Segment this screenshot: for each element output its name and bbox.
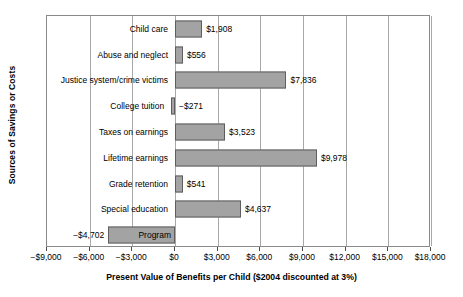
x-tick-label: $9,000 [289, 252, 315, 262]
value-label: $556 [187, 50, 206, 60]
bar[interactable] [175, 149, 317, 166]
x-tick-mark [131, 247, 132, 251]
plot-area: Child care$1,908Abuse and neglect$556Jus… [46, 15, 430, 247]
bar-inner-label: Program [138, 230, 171, 240]
category-label: Child care [130, 24, 168, 34]
bar-row: Special education$4,637 [47, 196, 429, 222]
x-tick-label: −$9,000 [31, 252, 62, 262]
value-label: −$271 [179, 101, 203, 111]
category-label: Abuse and neglect [98, 50, 168, 60]
bar[interactable] [171, 98, 175, 115]
gridline [431, 16, 432, 246]
bar-row: Child care$1,908 [47, 16, 429, 42]
bar-row: Taxes on earnings$3,523 [47, 119, 429, 145]
value-label: $3,523 [229, 127, 255, 137]
category-label: Justice system/crime victims [61, 75, 168, 85]
x-tick-label: $0 [169, 252, 178, 262]
bar[interactable] [175, 20, 202, 37]
x-axis-title-text: Present Value of Benefits per Child ($20… [106, 272, 357, 282]
x-tick-mark [387, 247, 388, 251]
bar-row: Grade retention$541 [47, 171, 429, 197]
x-axis-title: Present Value of Benefits per Child ($20… [0, 272, 463, 282]
y-axis-title: Sources of Savings or Costs [0, 0, 24, 250]
bar[interactable] [175, 72, 286, 89]
category-label: Grade retention [109, 179, 168, 189]
x-tick-mark [217, 247, 218, 251]
category-label: College tuition [110, 101, 164, 111]
x-tick-label: $6,000 [246, 252, 272, 262]
bar-row: Lifetime earnings$9,978 [47, 145, 429, 171]
bar-chart: Sources of Savings or Costs Child care$1… [0, 0, 463, 297]
value-label: $9,978 [321, 153, 347, 163]
value-label: $1,908 [206, 24, 232, 34]
value-label: −$4,702 [73, 230, 104, 240]
x-tick-mark [259, 247, 260, 251]
y-axis-title-text: Sources of Savings or Costs [7, 66, 17, 184]
bar-row: College tuition−$271 [47, 93, 429, 119]
category-label: Special education [101, 204, 168, 214]
x-tick-mark [174, 247, 175, 251]
bar[interactable] [175, 201, 241, 218]
x-tick-mark [430, 247, 431, 251]
value-label: $4,637 [245, 204, 271, 214]
bar[interactable] [175, 46, 183, 63]
x-tick-mark [46, 247, 47, 251]
bar-row: ProgramProgram−$4,702 [47, 222, 429, 248]
bar-row: Abuse and neglect$556 [47, 42, 429, 68]
x-tick-mark [89, 247, 90, 251]
x-tick-label: −$6,000 [73, 252, 104, 262]
x-tick-label: $18,000 [415, 252, 446, 262]
value-label: $7,836 [290, 75, 316, 85]
bar[interactable] [175, 175, 183, 192]
bar-row: Justice system/crime victims$7,836 [47, 68, 429, 94]
x-tick-mark [345, 247, 346, 251]
category-label: Taxes on earnings [99, 127, 168, 137]
bar[interactable] [175, 123, 225, 140]
x-tick-mark [302, 247, 303, 251]
x-tick-label: $15,000 [372, 252, 403, 262]
x-tick-label: −$3,000 [116, 252, 147, 262]
value-label: $541 [187, 179, 206, 189]
x-tick-label: $3,000 [204, 252, 230, 262]
x-tick-label: $12,000 [329, 252, 360, 262]
category-label: Lifetime earnings [103, 153, 168, 163]
